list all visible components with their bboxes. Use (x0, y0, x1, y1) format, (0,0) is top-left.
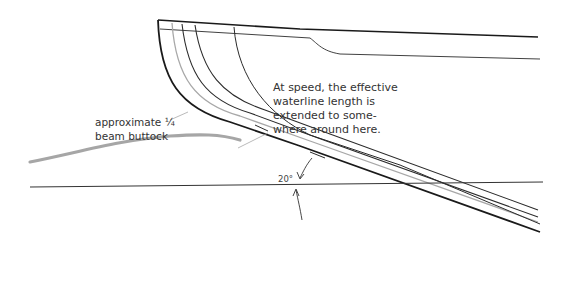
callout-line-2: waterline length is (273, 95, 398, 109)
callout-arrow-icon (300, 158, 312, 178)
angle-arrow-icon (296, 190, 302, 220)
buttock-label: approximate ¼ beam buttock (95, 115, 175, 143)
waterline-callout-text: At speed, the effective waterline length… (273, 81, 398, 137)
callout-line-3: extended to some- (273, 109, 398, 123)
angle-label: 20° (278, 172, 293, 186)
cabin-line (160, 29, 540, 59)
callout-line-4: where around here. (273, 123, 398, 137)
callout-line-1: At speed, the effective (273, 81, 398, 95)
hull-profile-diagram (0, 0, 570, 290)
buttock-label-line-1: approximate ¼ (95, 115, 175, 129)
angle-arrowhead-icon (293, 189, 299, 196)
buttock-label-line-2: beam buttock (95, 129, 175, 143)
sheer-line (158, 20, 538, 37)
callout-leader-line (238, 133, 268, 148)
